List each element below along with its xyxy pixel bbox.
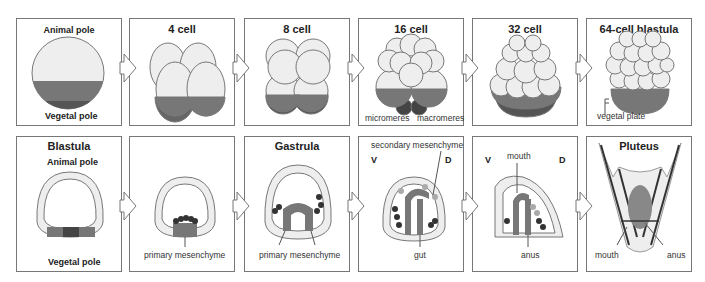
arrow-icon: [233, 54, 249, 82]
arrow-icon: [233, 192, 249, 220]
arrow-icon: [462, 54, 478, 82]
arrow-icon: [576, 54, 592, 82]
arrow-icon: [120, 192, 136, 220]
arrow-icon: [348, 54, 364, 82]
arrow-icon: [576, 192, 592, 220]
arrow-icon: [120, 54, 136, 82]
stage-arrows: [0, 0, 705, 282]
arrow-icon: [462, 192, 478, 220]
arrow-icon: [348, 192, 364, 220]
